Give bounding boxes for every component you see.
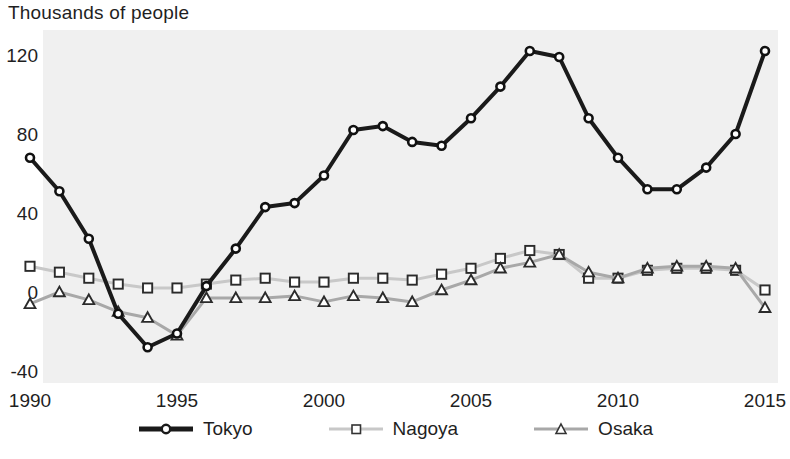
x-tick-label: 2005: [450, 390, 492, 411]
circle-marker: [85, 235, 93, 243]
y-tick-label: 120: [6, 45, 38, 66]
square-marker: [319, 278, 328, 287]
circle-marker: [702, 164, 710, 172]
circle-marker: [438, 142, 446, 150]
circle-marker: [261, 203, 269, 211]
x-tick-label: 2010: [597, 390, 639, 411]
circle-marker: [526, 47, 534, 55]
circle-marker: [291, 199, 299, 207]
circle-marker: [26, 154, 34, 162]
circle-marker: [379, 122, 387, 130]
square-marker: [114, 280, 123, 289]
square-marker: [84, 274, 93, 283]
y-tick-label: 80: [17, 124, 38, 145]
circle-marker: [173, 330, 181, 338]
x-tick-label: 2000: [303, 390, 345, 411]
circle-marker: [467, 114, 475, 122]
square-marker: [231, 276, 240, 285]
square-marker: [525, 246, 534, 255]
circle-marker: [55, 187, 63, 195]
square-marker: [466, 264, 475, 273]
square-marker: [437, 270, 446, 279]
legend-label-tokyo: Tokyo: [203, 418, 253, 440]
triangle-marker-icon: [532, 420, 590, 438]
y-tick-label: 40: [17, 203, 38, 224]
x-tick-label: 1990: [9, 390, 51, 411]
square-marker-icon: [327, 420, 385, 438]
square-marker: [290, 278, 299, 287]
square-marker: [25, 262, 34, 271]
circle-marker: [643, 185, 651, 193]
plot-background: [43, 30, 778, 383]
circle-marker: [114, 310, 122, 318]
y-axis-tick-labels: -4004080120: [6, 45, 38, 382]
circle-marker: [232, 245, 240, 253]
circle-marker: [408, 138, 416, 146]
legend-label-nagoya: Nagoya: [393, 418, 459, 440]
circle-marker-icon: [137, 420, 195, 438]
square-marker: [349, 274, 358, 283]
circle-marker: [614, 154, 622, 162]
circle-marker: [320, 172, 328, 180]
square-marker: [760, 285, 769, 294]
square-marker: [143, 283, 152, 292]
circle-marker: [496, 83, 504, 91]
legend-label-osaka: Osaka: [598, 418, 653, 440]
circle-marker: [585, 114, 593, 122]
square-marker: [55, 268, 64, 277]
x-tick-label: 2015: [744, 390, 786, 411]
circle-marker: [673, 185, 681, 193]
circle-marker: [555, 53, 563, 61]
plot-canvas: -4004080120 199019952000200520102015: [0, 0, 790, 420]
circle-marker: [732, 130, 740, 138]
x-axis-tick-labels: 199019952000200520102015: [9, 390, 786, 411]
circle-marker: [349, 126, 357, 134]
circle-marker: [144, 343, 152, 351]
legend-item-nagoya[interactable]: Nagoya: [327, 418, 459, 440]
y-tick-label: -40: [11, 361, 38, 382]
legend-item-osaka[interactable]: Osaka: [532, 418, 653, 440]
square-marker: [172, 283, 181, 292]
chart-legend: Tokyo Nagoya Osaka: [0, 418, 790, 440]
circle-marker: [761, 47, 769, 55]
migration-line-chart: Thousands of people -4004080120 19901995…: [0, 0, 790, 459]
square-marker: [408, 276, 417, 285]
square-marker: [261, 274, 270, 283]
legend-item-tokyo[interactable]: Tokyo: [137, 418, 253, 440]
x-tick-label: 1995: [156, 390, 198, 411]
square-marker: [378, 274, 387, 283]
circle-marker: [202, 282, 210, 290]
